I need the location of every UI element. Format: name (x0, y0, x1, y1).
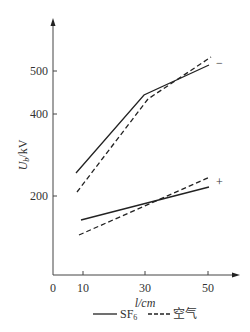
x-tick-50: 50 (202, 281, 214, 295)
y-tick-200: 200 (30, 189, 48, 203)
svg-text:Ub/kV: Ub/kV (16, 139, 31, 170)
series-sf6-positive (81, 187, 209, 220)
x-axis-label: l/cm (135, 296, 156, 310)
series-air-positive (79, 177, 210, 235)
y-tick-500: 500 (30, 64, 48, 78)
series-sf6-negative (76, 65, 209, 173)
legend-air-label: 空气 (173, 306, 197, 321)
x-tick-10: 10 (77, 281, 89, 295)
x-tick-0: 0 (50, 281, 56, 295)
y-axis-arrow-icon (51, 18, 56, 26)
y-axis-label: Ub/kV (16, 139, 31, 170)
chart: 500 400 200 0 10 30 50 l/cm Ub/kV − + SF… (0, 0, 250, 332)
x-tick-30: 30 (139, 281, 151, 295)
series-air-negative (77, 57, 211, 192)
positive-label: + (216, 175, 223, 189)
negative-label: − (216, 56, 223, 70)
x-axis-arrow-icon (232, 273, 240, 278)
y-tick-400: 400 (30, 107, 48, 121)
